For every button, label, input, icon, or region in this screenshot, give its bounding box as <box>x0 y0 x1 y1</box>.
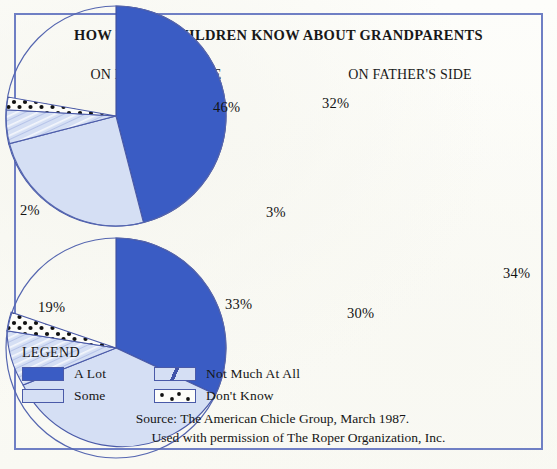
hatched-swatch-icon <box>154 367 196 381</box>
legend-label-a-lot: A Lot <box>74 366 148 382</box>
legend-label-not-much: Not Much At All <box>206 366 322 382</box>
pie-chart-mothers-side <box>0 0 232 232</box>
legend-label-dont-know: Don't Know <box>206 388 322 404</box>
pie-right-subtitle: ON FATHER'S SIDE <box>300 67 520 83</box>
dotted-swatch-glyph <box>155 390 196 403</box>
legend-title: LEGEND <box>22 345 322 361</box>
source-note: Source: The American Chicle Group, March… <box>0 409 545 447</box>
solid-blue-swatch-icon <box>22 367 64 381</box>
pie-right-label-dont-know-visible: 3% <box>266 204 286 221</box>
figure-page: HOW MUCH CHILDREN KNOW ABOUT GRANDPARENT… <box>0 0 557 469</box>
dotted-swatch-icon <box>154 389 196 403</box>
light-blue-swatch-icon <box>22 389 64 403</box>
pie-left-label-a-lot: 46% <box>213 99 240 116</box>
source-line-2: Used with permission of The Roper Organi… <box>0 428 545 447</box>
legend: LEGEND A Lot Not Much At All Some Don't … <box>22 345 322 406</box>
legend-label-some: Some <box>74 388 148 404</box>
pie-right-label-some: 34% <box>503 265 530 282</box>
source-line-1: Source: The American Chicle Group, March… <box>0 409 545 428</box>
pie-right-label-a-lot: 32% <box>322 95 349 112</box>
pie-right-label-not-much: 30% <box>347 305 374 322</box>
pie-left-label-dont-know: 2% <box>20 202 40 219</box>
pie-left-svg <box>0 0 232 232</box>
